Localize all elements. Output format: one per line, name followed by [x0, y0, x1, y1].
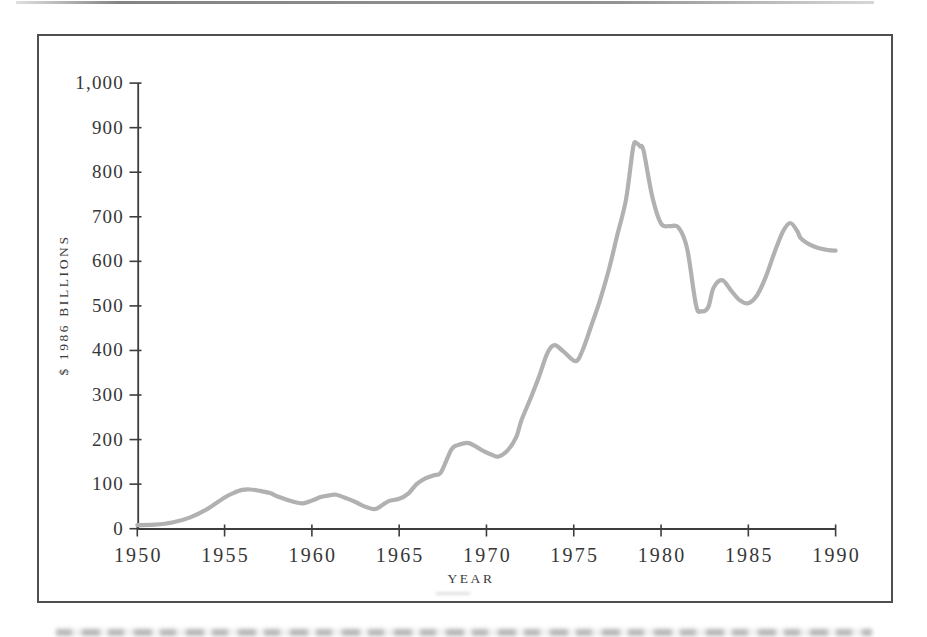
x-tick-label: 1990	[812, 544, 861, 566]
x-tick-label: 1980	[638, 544, 687, 566]
scanned-chart-page: 01002003004005006007008009001,0001950195…	[0, 0, 927, 637]
y-tick-label: 400	[92, 339, 124, 360]
y-tick-label: 300	[92, 384, 124, 405]
y-tick-label: 800	[92, 161, 124, 182]
x-tick-label: 1965	[376, 544, 425, 566]
scan-artifact-bottom-band	[56, 629, 872, 636]
x-tick-label: 1985	[725, 544, 774, 566]
y-tick-label: 500	[92, 295, 124, 316]
y-tick-label: 100	[92, 473, 124, 494]
x-tick-label: 1955	[201, 544, 250, 566]
x-axis-title: YEAR	[371, 571, 571, 587]
y-axis-title: $ 1986 BILLIONS	[56, 135, 72, 475]
y-tick-label: 600	[92, 250, 124, 271]
x-tick-label: 1950	[114, 544, 163, 566]
y-tick-label: 700	[92, 206, 124, 227]
y-tick-label: 200	[92, 429, 124, 450]
y-tick-label: 900	[92, 117, 124, 138]
x-tick-label: 1970	[463, 544, 512, 566]
scan-smudge	[436, 592, 470, 595]
x-tick-label: 1960	[288, 544, 337, 566]
data-series-line	[137, 142, 835, 525]
y-tick-label: 1,000	[75, 72, 124, 93]
y-tick-label: 0	[113, 518, 124, 539]
line-chart: 01002003004005006007008009001,0001950195…	[0, 0, 927, 637]
x-tick-label: 1975	[550, 544, 599, 566]
